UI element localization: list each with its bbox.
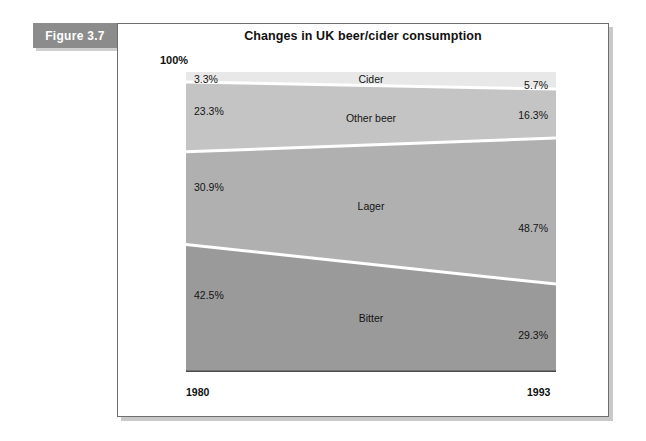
band-value-left-bitter: 42.5% (194, 289, 224, 301)
x-axis-label-start: 1980 (186, 386, 209, 398)
band-name-lager: Lager (358, 200, 385, 212)
band-value-right-other-beer: 16.3% (518, 109, 548, 121)
band-name-bitter: Bitter (359, 312, 384, 324)
band-value-left-other-beer: 23.3% (194, 105, 224, 117)
band-value-right-lager: 48.7% (518, 222, 548, 234)
band-name-other-beer: Other beer (346, 112, 397, 124)
chart-title: Changes in UK beer/cider consumption (117, 29, 609, 43)
band-value-right-cider: 5.7% (524, 79, 548, 91)
band-name-cider: Cider (358, 73, 384, 85)
figure-number-badge: Figure 3.7 (33, 23, 117, 48)
band-value-left-cider: 3.3% (194, 73, 218, 85)
y-axis-top-label: 100% (160, 54, 188, 66)
stacked-area-plot: 3.3%5.7%Cider23.3%16.3%Other beer30.9%48… (186, 72, 556, 372)
x-axis-label-end: 1993 (527, 386, 550, 398)
band-value-right-bitter: 29.3% (518, 329, 548, 341)
figure-container: Figure 3.7 Changes in UK beer/cider cons… (0, 0, 646, 441)
band-value-left-lager: 30.9% (194, 181, 224, 193)
